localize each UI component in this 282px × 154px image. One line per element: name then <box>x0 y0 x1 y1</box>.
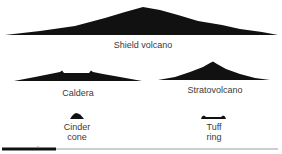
stratovolcano-profile-icon <box>158 62 270 81</box>
shield-volcano-label: Shield volcano <box>114 40 173 50</box>
cinder-cone-label-line-2: cone <box>64 132 91 142</box>
stratovolcano-label: Stratovolcano <box>187 85 242 95</box>
tuff-ring-label-line-2: ring <box>206 132 221 142</box>
tuff-ring-label: Tuff ring <box>206 122 221 142</box>
tuff-ring-profile-icon <box>201 116 226 120</box>
scale-bar-black-segment <box>2 148 56 151</box>
caldera-label: Caldera <box>62 88 94 98</box>
scale-bar-tick-dot <box>37 146 38 147</box>
cinder-cone-profile-icon <box>70 113 84 119</box>
caldera-profile-icon <box>14 71 142 82</box>
shield-volcano-profile-icon <box>5 7 278 35</box>
volcano-profiles-figure <box>0 0 282 154</box>
scale-bar <box>2 146 278 151</box>
cinder-cone-label-line-1: Cinder <box>64 122 91 132</box>
tuff-ring-label-line-1: Tuff <box>206 122 221 132</box>
cinder-cone-label: Cinder cone <box>64 122 91 142</box>
